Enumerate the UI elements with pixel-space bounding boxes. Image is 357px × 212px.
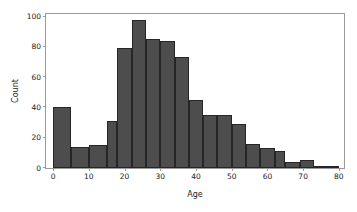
x-tick-label: 70 <box>298 173 308 181</box>
y-axis-label: Count <box>10 13 22 169</box>
x-tick-mark <box>89 168 90 171</box>
histogram-bar <box>246 144 260 168</box>
bars-container <box>46 14 344 168</box>
histogram-bar <box>314 166 339 168</box>
histogram-bar <box>146 39 160 168</box>
histogram-figure: Count 020406080100 01020304050607080 Age <box>0 0 357 212</box>
x-tick-label: 10 <box>84 173 94 181</box>
x-tick-mark <box>267 168 268 171</box>
y-axis-label-text: Count <box>12 79 20 103</box>
plot-area: 020406080100 01020304050607080 <box>45 13 345 169</box>
histogram-bar <box>189 100 203 168</box>
y-tick-label: 20 <box>31 134 46 142</box>
x-tick-mark <box>303 168 304 171</box>
histogram-bar <box>117 48 131 168</box>
x-tick-mark <box>196 168 197 171</box>
x-tick-mark <box>232 168 233 171</box>
x-tick-label: 50 <box>227 173 237 181</box>
x-axis-label: Age <box>45 191 345 199</box>
y-tick-label: 80 <box>31 43 46 51</box>
x-tick-mark <box>125 168 126 171</box>
x-tick-label: 0 <box>51 173 56 181</box>
histogram-bar <box>175 57 189 168</box>
histogram-bar <box>107 121 118 168</box>
histogram-bar <box>89 145 107 168</box>
x-tick-label: 40 <box>191 173 201 181</box>
histogram-bar <box>132 20 146 168</box>
histogram-bar <box>260 148 274 168</box>
histogram-bar <box>300 160 314 168</box>
x-tick-label: 60 <box>263 173 273 181</box>
y-tick-label: 100 <box>27 13 46 21</box>
x-tick-label: 20 <box>120 173 130 181</box>
histogram-bar <box>232 124 246 168</box>
y-tick-label: 0 <box>36 164 46 172</box>
x-tick-mark <box>160 168 161 171</box>
histogram-bar <box>217 115 231 168</box>
histogram-bar <box>53 107 71 168</box>
histogram-bar <box>160 41 174 168</box>
x-tick-label: 30 <box>156 173 166 181</box>
x-tick-label: 80 <box>334 173 344 181</box>
y-tick-label: 40 <box>31 104 46 112</box>
x-tick-mark <box>339 168 340 171</box>
y-tick-label: 60 <box>31 73 46 81</box>
histogram-bar <box>275 151 286 168</box>
histogram-bar <box>203 115 217 168</box>
histogram-bar <box>285 162 299 168</box>
x-tick-mark <box>53 168 54 171</box>
histogram-bar <box>71 147 89 168</box>
